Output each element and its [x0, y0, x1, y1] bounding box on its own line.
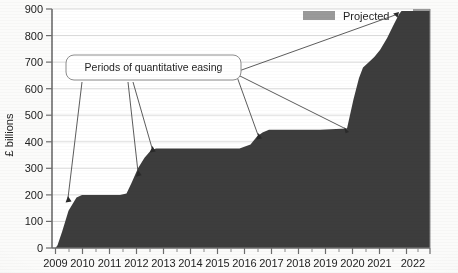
x-tick-2013: 2013	[151, 257, 175, 269]
y-axis-ticks	[46, 9, 52, 248]
legend-swatch-projected	[303, 11, 335, 20]
x-tick-2011: 2011	[98, 257, 122, 269]
x-tick-2012: 2012	[124, 257, 148, 269]
x-tick-2014: 2014	[178, 257, 202, 269]
x-axis-ticks	[56, 248, 431, 254]
y-tick-800: 800	[25, 30, 43, 42]
qe-callout-label: Periods of quantitative easing	[85, 61, 223, 73]
y-tick-0: 0	[37, 242, 43, 254]
x-tick-2017: 2017	[259, 257, 283, 269]
x-tick-2022: 2022	[401, 257, 425, 269]
x-axis-tick-labels: 2009 2010 2011 2012 2013 2014 2015 2016 …	[43, 257, 425, 269]
y-tick-400: 400	[25, 136, 43, 148]
qe-callout: Periods of quantitative easing	[66, 55, 241, 80]
x-tick-2010: 2010	[70, 257, 94, 269]
x-tick-2021: 2021	[367, 257, 391, 269]
legend-label-projected: Projected	[343, 10, 389, 22]
x-tick-2018: 2018	[286, 257, 310, 269]
y-axis-title: £ billions	[3, 113, 15, 156]
qe-area-chart: 900 800 700 600 500 400 300 200 100 0 20…	[0, 0, 458, 273]
x-tick-2020: 2020	[340, 257, 364, 269]
y-tick-500: 500	[25, 109, 43, 121]
y-tick-200: 200	[25, 189, 43, 201]
x-tick-2015: 2015	[205, 257, 229, 269]
y-tick-100: 100	[25, 215, 43, 227]
y-tick-700: 700	[25, 56, 43, 68]
chart-svg: 900 800 700 600 500 400 300 200 100 0 20…	[0, 0, 458, 273]
y-tick-900: 900	[25, 3, 43, 15]
x-tick-2009: 2009	[43, 257, 67, 269]
y-tick-300: 300	[25, 162, 43, 174]
y-axis-tick-labels: 900 800 700 600 500 400 300 200 100 0	[25, 3, 43, 254]
y-tick-600: 600	[25, 83, 43, 95]
x-tick-2016: 2016	[232, 257, 256, 269]
x-tick-2019: 2019	[313, 257, 337, 269]
